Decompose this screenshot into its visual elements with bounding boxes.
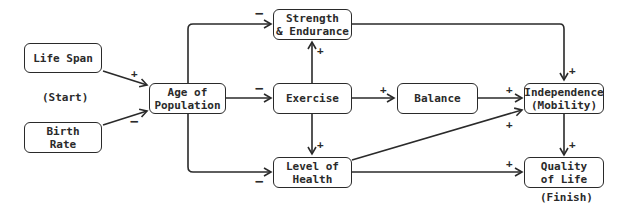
sign-age-strength: −	[255, 8, 263, 19]
node-level-of-health: Level of Health	[273, 157, 352, 188]
edge-birthrate-age	[103, 111, 147, 125]
sign-birthrate-age: −	[130, 116, 138, 127]
sign-age-exercise: −	[255, 83, 263, 94]
edge-age-strength	[188, 24, 271, 83]
edge-health-independence	[352, 110, 522, 160]
sign-strength-independence: +	[569, 65, 576, 76]
node-exercise: Exercise	[273, 83, 352, 114]
sign-independence-quality: +	[569, 139, 576, 150]
edge-strength-independence	[352, 24, 564, 80]
sign-exercise-health: +	[317, 139, 324, 150]
edge-age-health	[188, 114, 271, 172]
finish-label: (Finish)	[540, 191, 593, 204]
sign-health-quality: +	[506, 158, 513, 169]
node-quality-of-life: Quality of Life	[524, 157, 604, 188]
node-life-span: Life Span	[24, 43, 102, 73]
node-birth-rate: Birth Rate	[24, 122, 102, 153]
start-label: (Start)	[42, 91, 88, 104]
node-balance: Balance	[397, 83, 478, 114]
sign-exercise-balance: +	[380, 84, 387, 95]
sign-balance-independence: +	[506, 84, 513, 95]
node-independence: Independence (Mobility)	[524, 83, 604, 114]
sign-age-health: −	[255, 176, 263, 187]
edge-lifespan-age	[103, 71, 147, 85]
node-age-of-population: Age of Population	[149, 83, 226, 114]
sign-lifespan-age: +	[131, 68, 138, 79]
node-strength-endurance: Strength & Endurance	[273, 9, 352, 40]
sign-health-independence: +	[506, 119, 513, 130]
sign-exercise-strength: +	[317, 45, 324, 56]
